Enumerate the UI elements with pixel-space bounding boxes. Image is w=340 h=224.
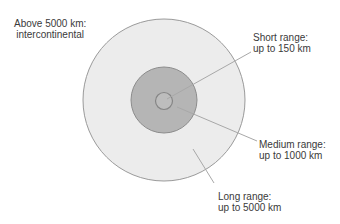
short-range-label-line2: up to 150 km: [253, 43, 311, 54]
short-range-label: Short range: up to 150 km: [253, 32, 311, 54]
short-range-circle: [156, 93, 173, 110]
long-range-label-line1: Long range:: [218, 191, 281, 202]
intercontinental-label: Above 5000 km: intercontinental: [14, 18, 86, 40]
medium-range-label: Medium range: up to 1000 km: [259, 139, 326, 161]
intercontinental-label-line1: Above 5000 km:: [14, 18, 86, 29]
long-range-label: Long range: up to 5000 km: [218, 191, 281, 213]
long-range-label-line2: up to 5000 km: [218, 202, 281, 213]
intercontinental-label-line2: intercontinental: [14, 29, 86, 40]
medium-range-label-line2: up to 1000 km: [259, 150, 326, 161]
medium-range-label-line1: Medium range:: [259, 139, 326, 150]
short-range-label-line1: Short range:: [253, 32, 311, 43]
